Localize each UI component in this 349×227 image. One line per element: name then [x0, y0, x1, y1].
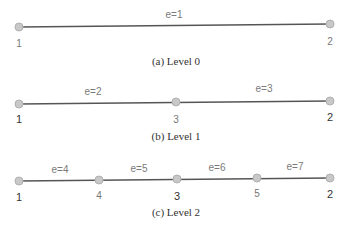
node-3: [173, 175, 181, 183]
edge-label: e=7: [287, 161, 304, 172]
node-2: [326, 97, 334, 105]
caption-level-2: (c) Level 2: [152, 206, 200, 219]
node-2: [326, 20, 334, 28]
node-1: [15, 177, 23, 185]
node-1: [15, 23, 23, 31]
node-4: [95, 176, 103, 184]
node-5: [253, 174, 261, 182]
edge-label: e=1: [166, 9, 183, 20]
edge-e1: [19, 24, 330, 27]
node-label: 1: [16, 38, 22, 49]
node-label: 2: [327, 36, 333, 47]
edge-label: e=5: [131, 163, 148, 174]
edge-label: e=2: [85, 86, 102, 97]
caption-level-1: (b) Level 1: [152, 130, 201, 143]
edge-label: e=4: [52, 164, 69, 175]
edge-label: e=3: [256, 83, 273, 94]
level-1: e=2 e=3 1 3 2 (b) Level 1: [15, 83, 334, 143]
level-2: e=4 e=5 e=6 e=7 1 4 3 5 2 (c) Level 2: [15, 161, 334, 219]
node-label: 1: [16, 113, 22, 125]
node-label: 3: [173, 114, 179, 125]
node-label: 2: [327, 188, 333, 200]
node-label: 4: [96, 190, 102, 201]
node-label: 1: [16, 191, 22, 203]
caption-level-0: (a) Level 0: [152, 55, 201, 68]
level-0: e=1 1 2 (a) Level 0: [15, 9, 334, 68]
node-1: [15, 100, 23, 108]
node-2: [326, 174, 334, 182]
node-label: 5: [254, 188, 260, 199]
node-label: 2: [327, 111, 333, 123]
node-label: 3: [174, 190, 180, 202]
mesh-refinement-diagram: e=1 1 2 (a) Level 0 e=2 e=3 1 3 2 (b) Le…: [0, 0, 349, 227]
edge-label: e=6: [209, 162, 226, 173]
node-3: [172, 98, 180, 106]
